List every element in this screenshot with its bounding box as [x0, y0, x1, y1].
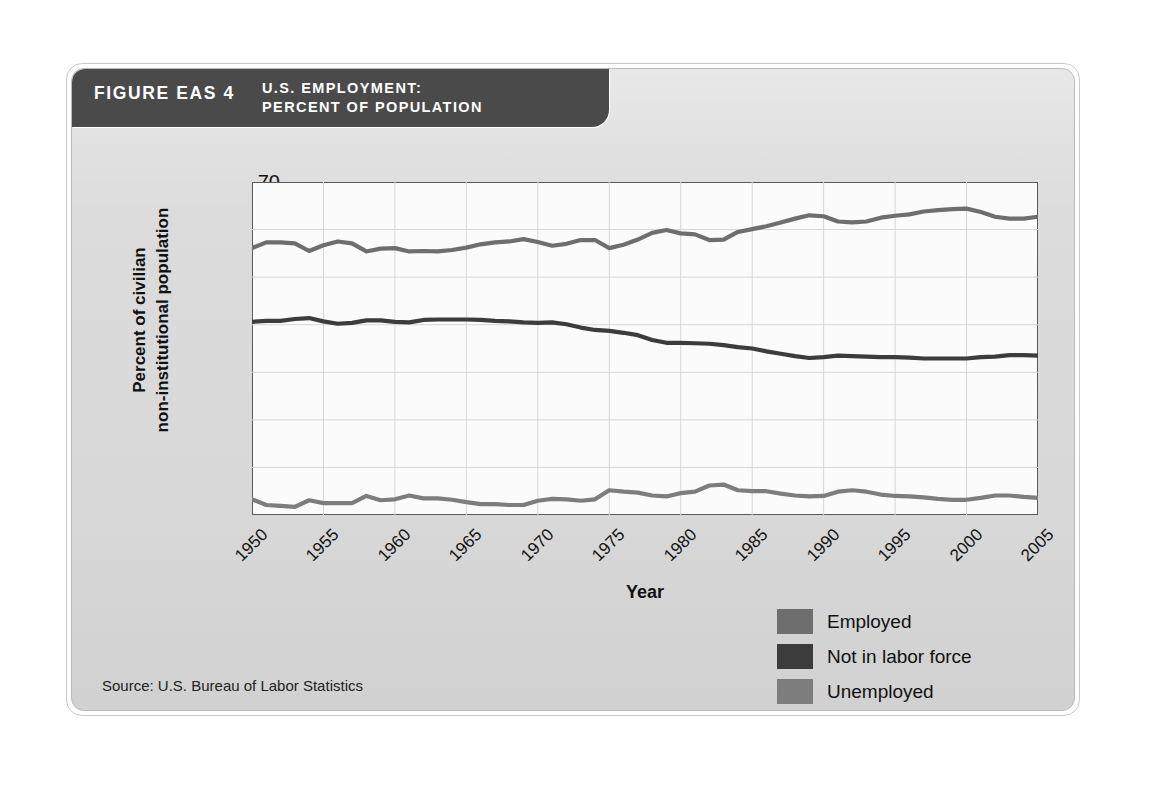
- source-note: Source: U.S. Bureau of Labor Statistics: [102, 677, 363, 694]
- figure-number-label: FIGURE EAS 4: [94, 83, 235, 104]
- legend-swatch-icon: [777, 609, 813, 634]
- figure-title-line-2: PERCENT OF POPULATION: [262, 98, 483, 117]
- x-axis-title: Year: [252, 582, 1038, 603]
- legend-swatch-icon: [777, 644, 813, 669]
- legend-swatch-icon: [777, 679, 813, 704]
- chart-area: Percent of civilian non-institutional po…: [72, 127, 1074, 710]
- legend-item-label: Not in labor force: [827, 646, 972, 668]
- x-axis-tick-2005: 2005: [1007, 525, 1058, 576]
- legend-item: Employed: [777, 604, 972, 639]
- plot-region: [252, 182, 1038, 515]
- x-axis-tick-1985: 1985: [721, 525, 772, 576]
- figure-title: U.S. EMPLOYMENT: PERCENT OF POPULATION: [262, 79, 483, 117]
- legend-item-label: Unemployed: [827, 681, 934, 703]
- figure-header-bar: FIGURE EAS 4 U.S. EMPLOYMENT: PERCENT OF…: [72, 69, 609, 127]
- y-axis-title-line-1: Percent of civilian: [128, 155, 151, 485]
- figure-frame-outer: FIGURE EAS 4 U.S. EMPLOYMENT: PERCENT OF…: [66, 63, 1080, 716]
- x-axis-tick-1995: 1995: [864, 525, 915, 576]
- chart-legend: EmployedNot in labor forceUnemployed: [777, 604, 972, 709]
- y-axis-title: Percent of civilian non-institutional po…: [128, 155, 174, 485]
- x-axis-tick-1950: 1950: [221, 525, 272, 576]
- x-axis-tick-1980: 1980: [650, 525, 701, 576]
- plot-svg: [252, 182, 1038, 515]
- x-axis-tick-1960: 1960: [364, 525, 415, 576]
- series-line-unemployed: [252, 485, 1038, 507]
- x-axis-tick-1965: 1965: [436, 525, 487, 576]
- x-axis-tick-1975: 1975: [578, 525, 629, 576]
- gridlines: [252, 182, 1038, 515]
- legend-item: Not in labor force: [777, 639, 972, 674]
- series-lines: [252, 209, 1038, 507]
- legend-item-label: Employed: [827, 611, 912, 633]
- series-line-not-in-labor-force: [252, 318, 1038, 358]
- legend-item: Unemployed: [777, 674, 972, 709]
- y-axis-title-line-2: non-institutional population: [151, 155, 174, 485]
- x-axis-tick-1990: 1990: [793, 525, 844, 576]
- x-axis-tick-2000: 2000: [936, 525, 987, 576]
- figure-panel: FIGURE EAS 4 U.S. EMPLOYMENT: PERCENT OF…: [71, 68, 1075, 711]
- x-axis-tick-1970: 1970: [507, 525, 558, 576]
- x-axis-tick-1955: 1955: [293, 525, 344, 576]
- figure-title-line-1: U.S. EMPLOYMENT:: [262, 79, 483, 98]
